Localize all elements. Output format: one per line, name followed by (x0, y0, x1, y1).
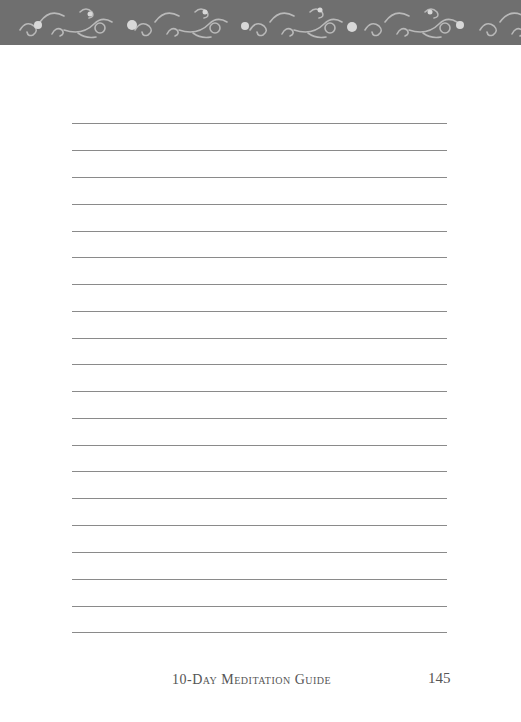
writing-line (72, 632, 447, 633)
writing-line (72, 552, 447, 553)
writing-line (72, 391, 447, 392)
writing-line (72, 471, 447, 472)
writing-lines (0, 0, 521, 722)
writing-line (72, 257, 447, 258)
writing-line (72, 338, 447, 339)
writing-line (72, 525, 447, 526)
writing-line (72, 445, 447, 446)
writing-line (72, 177, 447, 178)
writing-line (72, 284, 447, 285)
writing-line (72, 123, 447, 124)
writing-line (72, 364, 447, 365)
writing-line (72, 606, 447, 607)
writing-line (72, 204, 447, 205)
writing-line (72, 498, 447, 499)
writing-line (72, 150, 447, 151)
writing-line (72, 418, 447, 419)
writing-line (72, 311, 447, 312)
writing-line (72, 231, 447, 232)
writing-line (72, 579, 447, 580)
running-footer-title: 10-Day Meditation Guide (172, 672, 331, 688)
page-number: 145 (428, 670, 451, 687)
